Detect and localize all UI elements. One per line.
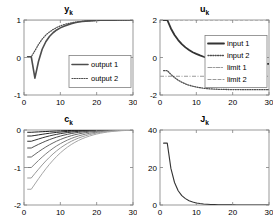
legend-label: limit 1	[227, 63, 247, 72]
legend-label: output 1	[91, 60, 118, 69]
ytick-label: 2	[153, 16, 158, 25]
series-ck-7	[28, 130, 133, 189]
ytick-label: 40	[148, 126, 157, 135]
xtick-label: 10	[192, 208, 201, 217]
xtick-label: 20	[228, 98, 237, 107]
legend-label: input 2	[227, 51, 250, 60]
ytick-label: -1	[14, 91, 22, 100]
chart-jk: Jk 010203002040	[136, 114, 273, 222]
chart-uk-canvas: 0102030-202input 1input 2limit 1limit 2	[136, 4, 273, 112]
legend-yk[interactable]: output 1output 2	[69, 56, 131, 88]
ytick-label: 1	[17, 16, 22, 25]
xtick-label: 30	[265, 98, 273, 107]
ytick-label: 0	[17, 54, 22, 63]
ytick-label: -2	[14, 201, 22, 210]
xtick-label: 10	[56, 208, 65, 217]
ytick-label: 0	[17, 126, 22, 135]
xtick-label: 20	[228, 208, 237, 217]
xtick-label: 0	[158, 98, 163, 107]
figure-panel-grid: yk 0102030-101output 1output 2 uk 010203…	[0, 0, 273, 224]
chart-yk: yk 0102030-101output 1output 2	[0, 4, 137, 112]
ytick-label: -2	[150, 91, 158, 100]
ytick-label: 0	[153, 201, 158, 210]
chart-yk-canvas: 0102030-101output 1output 2	[0, 4, 137, 112]
legend-label: limit 2	[227, 75, 247, 84]
xtick-label: 0	[22, 98, 27, 107]
chart-ck-canvas: 0102030-2-10	[0, 114, 137, 222]
ytick-label: -1	[14, 164, 22, 173]
chart-ck: ck 0102030-2-10	[0, 114, 137, 222]
xtick-label: 10	[192, 98, 201, 107]
xtick-label: 0	[158, 208, 163, 217]
ytick-label: 0	[153, 54, 158, 63]
xtick-label: 10	[56, 98, 65, 107]
series-yk-1	[28, 20, 133, 57]
series-ck-3	[28, 130, 133, 148]
legend-label: input 1	[227, 39, 250, 48]
legend-uk[interactable]: input 1input 2limit 1limit 2	[205, 36, 267, 88]
chart-uk: uk 0102030-202input 1input 2limit 1limit…	[136, 4, 273, 112]
xtick-label: 20	[92, 98, 101, 107]
xtick-label: 0	[22, 208, 27, 217]
legend-label: output 2	[91, 74, 118, 83]
ytick-label: 20	[148, 164, 157, 173]
chart-jk-canvas: 010203002040	[136, 114, 273, 222]
xtick-label: 20	[92, 208, 101, 217]
xtick-label: 30	[265, 208, 273, 217]
series-jk-0	[164, 143, 269, 205]
